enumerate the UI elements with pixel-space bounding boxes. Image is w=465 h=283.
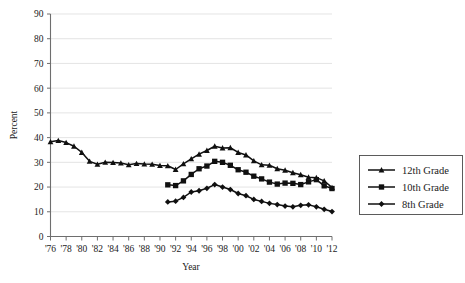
data-point-marker (220, 184, 226, 190)
gridlines (47, 14, 332, 237)
data-point-marker (290, 204, 296, 210)
y-tick-label: 40 (34, 133, 44, 143)
x-tick-label: '12 (326, 244, 337, 254)
data-point-marker (220, 160, 225, 165)
legend-entries: 12th Grade10th Grade8th Grade (368, 165, 449, 210)
data-point-marker (189, 172, 194, 177)
data-point-marker (322, 183, 327, 188)
data-point-marker (321, 206, 327, 212)
data-point-marker (259, 176, 264, 181)
y-axis-title: Percent (9, 110, 19, 139)
data-point-marker (251, 197, 257, 203)
x-tick-label: '88 (139, 244, 150, 254)
data-point-marker (275, 181, 280, 186)
y-tick-label: 0 (39, 232, 44, 242)
data-point-marker (282, 203, 288, 209)
y-tick-label: 20 (34, 182, 44, 192)
y-tick-label: 60 (34, 84, 44, 94)
legend: 12th Grade10th Grade8th Grade (360, 156, 463, 215)
x-tick-label: '02 (248, 244, 259, 254)
data-point-marker (228, 163, 233, 168)
data-point-marker (204, 148, 210, 153)
series-line-0 (51, 141, 333, 188)
axis-path (51, 14, 333, 237)
axis-lines (51, 14, 333, 237)
data-point-marker (329, 186, 334, 191)
data-point-marker (306, 202, 312, 208)
data-point-marker (282, 180, 287, 185)
data-point-marker (165, 199, 171, 205)
y-tick-label: 30 (34, 158, 44, 168)
x-tick-label: '10 (311, 244, 322, 254)
x-tick-label: '76 (45, 244, 56, 254)
x-tick-label: '90 (154, 244, 165, 254)
y-tick-label: 80 (34, 34, 44, 44)
y-tick-label: 50 (34, 108, 44, 118)
data-point-marker (313, 204, 319, 210)
x-tick-labels: '76'78'80'82'84'86'88'90'92'94'96'98'00'… (45, 244, 338, 254)
y-tick-label: 90 (34, 9, 44, 19)
data-point-marker (235, 167, 240, 172)
chart-figure: 0102030405060708090 '76'78'80'82'84'86'8… (0, 0, 465, 283)
x-tick-label: '06 (279, 244, 290, 254)
legend-marker-square (379, 184, 384, 189)
data-point-marker (227, 187, 233, 193)
x-tick-label: '92 (170, 244, 181, 254)
data-point-marker (251, 174, 256, 179)
y-tick-labels: 0102030405060708090 (34, 9, 44, 242)
data-point-marker (212, 182, 218, 188)
data-point-marker (298, 182, 303, 187)
data-point-marker (204, 185, 210, 191)
data-point-marker (243, 170, 248, 175)
x-tick-label: '98 (217, 244, 228, 254)
data-point-marker (212, 159, 217, 164)
x-tick-label: '96 (201, 244, 212, 254)
data-point-marker (188, 156, 194, 161)
data-point-marker (306, 179, 311, 184)
x-tick-label: '80 (76, 244, 87, 254)
data-point-marker (173, 198, 179, 204)
data-point-marker (181, 178, 186, 183)
data-point-marker (196, 188, 202, 194)
data-point-marker (173, 183, 178, 188)
data-point-marker (274, 202, 280, 208)
x-axis-title: Year (182, 262, 200, 272)
data-point-marker (314, 177, 319, 182)
legend-label: 8th Grade (402, 199, 444, 210)
data-point-marker (196, 166, 201, 171)
data-point-marker (204, 163, 209, 168)
x-tick-label: '82 (92, 244, 103, 254)
data-point-marker (259, 198, 265, 204)
data-point-marker (267, 200, 273, 206)
data-point-marker (329, 209, 335, 215)
legend-label: 10th Grade (402, 182, 449, 193)
data-point-marker (298, 202, 304, 208)
x-tick-label: '00 (233, 244, 244, 254)
data-point-marker (235, 191, 241, 197)
data-point-marker (267, 179, 272, 184)
x-tick-label: '84 (107, 244, 118, 254)
x-tick-label: '86 (123, 244, 134, 254)
data-markers (48, 138, 335, 215)
y-tick-label: 10 (34, 207, 44, 217)
series-line-2 (168, 185, 332, 212)
y-tick-label: 70 (34, 59, 44, 69)
x-tick-marks (51, 237, 333, 241)
line-chart: 0102030405060708090 '76'78'80'82'84'86'8… (0, 0, 465, 283)
x-tick-label: '04 (264, 244, 275, 254)
data-point-marker (243, 193, 249, 199)
x-tick-label: '94 (186, 244, 197, 254)
x-tick-label: '08 (295, 244, 306, 254)
data-point-marker (165, 182, 170, 187)
x-tick-label: '78 (61, 244, 72, 254)
data-point-marker (290, 181, 295, 186)
legend-label: 12th Grade (402, 165, 449, 176)
